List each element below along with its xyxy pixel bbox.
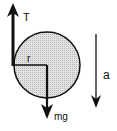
tension-label: T [23,11,30,23]
acceleration-label: a [103,68,110,82]
acceleration-arrow [91,34,101,108]
weight-label: mg [54,111,68,122]
free-body-diagram: T r mg a [0,0,117,131]
